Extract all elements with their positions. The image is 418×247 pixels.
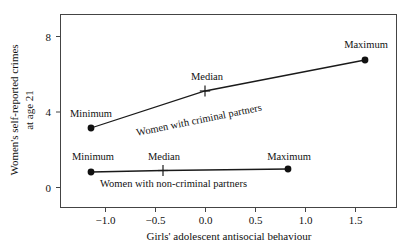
x-tick-label-neg05: −0.5	[146, 214, 166, 226]
y-tick-label-4: 4	[46, 106, 52, 118]
label-noncriminal-maximum: Maximum	[267, 151, 311, 162]
label-criminal-median: Median	[191, 71, 224, 82]
y-axis-ticks: 8 4 0	[46, 31, 61, 194]
label-criminal-minimum: Minimum	[70, 108, 112, 119]
y-tick-label-8: 8	[46, 31, 52, 43]
data-point-criminal-maximum[interactable]	[362, 57, 369, 64]
data-point-noncriminal-maximum[interactable]	[285, 166, 292, 173]
y-tick-label-0: 0	[46, 182, 52, 194]
x-axis-ticks: −1.0 −0.5 0.0 0.5 1.0 1.5	[96, 208, 363, 227]
data-point-criminal-median[interactable]	[200, 86, 210, 97]
x-tick-label-neg1: −1.0	[96, 214, 116, 226]
label-noncriminal-median: Median	[148, 151, 181, 162]
series-criminal-partners: Minimum Median Maximum Women with crimin…	[70, 39, 388, 138]
y-axis-title-line2: at age 21	[23, 90, 35, 130]
chart-figure: 8 4 0 −1.0 −0.5 0.0 0.5 1.0 1.5 Girls' a…	[0, 0, 418, 247]
data-point-criminal-minimum[interactable]	[88, 125, 95, 132]
data-point-noncriminal-minimum[interactable]	[88, 169, 95, 176]
series-non-criminal-partners: Minimum Median Maximum Women with non-cr…	[72, 151, 311, 189]
x-tick-label-0: 0.0	[199, 214, 213, 226]
series-non-criminal-partners-line	[91, 169, 288, 172]
x-axis-title: Girls' adolescent antisocial behaviour	[147, 230, 312, 242]
y-axis-title-line1: Women's self-reported crimes	[8, 44, 20, 175]
x-tick-label-15: 1.5	[349, 214, 363, 226]
scatter-line-plot: 8 4 0 −1.0 −0.5 0.0 0.5 1.0 1.5 Girls' a…	[0, 0, 418, 247]
data-point-noncriminal-median[interactable]	[158, 165, 168, 176]
x-tick-label-1: 1.0	[299, 214, 313, 226]
series-label-non-criminal-partners: Women with non-criminal partners	[100, 178, 247, 189]
label-noncriminal-minimum: Minimum	[72, 151, 114, 162]
x-tick-label-05: 0.5	[249, 214, 263, 226]
label-criminal-maximum: Maximum	[344, 39, 388, 50]
